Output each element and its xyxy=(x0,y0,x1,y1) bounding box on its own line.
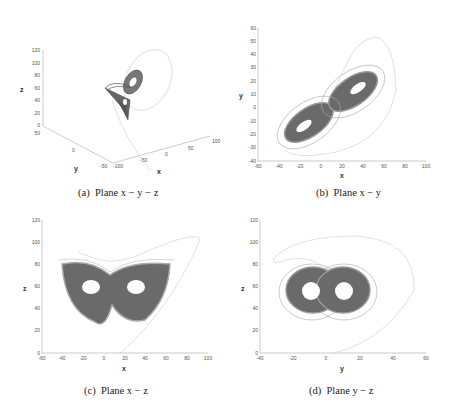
caption-label: (a) xyxy=(78,187,90,198)
caption-b: (b) Plane x − y xyxy=(316,187,381,198)
caption-text: Plane x − y − z xyxy=(95,187,158,198)
x-tick: -60 xyxy=(38,355,45,361)
x-tick: 0 xyxy=(103,355,106,361)
y-axis-label: z xyxy=(23,285,27,292)
x-tick: -20 xyxy=(79,355,86,361)
x-tick: -40 xyxy=(275,163,282,169)
panel-b-xy: 60 50 40 30 20 10 0 -10 -20 -30 -40 -60 … xyxy=(226,0,453,200)
y-tick: 100 xyxy=(250,239,259,245)
x-tick: 100 xyxy=(212,138,221,144)
x-tick: -20 xyxy=(289,355,296,361)
y-tick: 80 xyxy=(252,261,258,267)
panel-d-yz: 120 100 80 60 40 20 0 -40 -20 0 20 40 60… xyxy=(226,200,453,407)
chart-xy: 60 50 40 30 20 10 0 -10 -20 -30 -40 -60 … xyxy=(226,0,453,200)
x-tick: 0 xyxy=(165,151,168,157)
caption-label: (c) xyxy=(84,385,96,396)
caption-text: Plane y − z xyxy=(327,385,374,396)
z-tick: 60 xyxy=(34,85,40,91)
caption-c: (c) Plane x − z xyxy=(84,385,148,396)
y-axis-label: z xyxy=(241,285,245,292)
y-tick: -30 xyxy=(249,144,256,150)
x-tick: 80 xyxy=(184,355,190,361)
x-tick: 100 xyxy=(422,163,431,169)
chart-3d-xyz: 120 100 80 60 40 20 0 50 0 -50 -100 -50 … xyxy=(0,0,226,200)
x-tick: -40 xyxy=(58,355,65,361)
z-tick: 100 xyxy=(32,60,41,66)
y-tick: 20 xyxy=(252,327,258,333)
chart-xz: 120 100 80 60 40 20 0 -60 -40 -20 0 20 4… xyxy=(0,200,226,407)
z-tick: 120 xyxy=(32,47,41,53)
y-tick: -50 xyxy=(100,163,107,169)
caption-label: (d) xyxy=(309,385,321,396)
x-tick: 0 xyxy=(325,355,328,361)
y-tick: 0 xyxy=(72,147,75,153)
y-tick: 120 xyxy=(32,217,41,223)
z-axis-label: z xyxy=(20,86,24,93)
caption-a: (a) Plane x − y − z xyxy=(78,187,158,198)
caption-text: Plane x − y xyxy=(334,187,382,198)
x-tick: 50 xyxy=(188,145,194,151)
z-tick: 80 xyxy=(34,72,40,78)
caption-label: (b) xyxy=(316,187,328,198)
y-tick: 60 xyxy=(252,283,258,289)
x-tick: 60 xyxy=(381,163,387,169)
y-tick: 40 xyxy=(252,305,258,311)
x-axis-label: x xyxy=(157,168,161,175)
x-axis-label: y xyxy=(340,365,344,373)
y-tick: 50 xyxy=(250,38,256,44)
y-tick: 60 xyxy=(250,25,256,31)
x-axis-label: x xyxy=(122,365,126,372)
x-tick: 20 xyxy=(357,355,363,361)
y-tick: 20 xyxy=(250,78,256,84)
y-axis-label: y xyxy=(74,165,78,173)
y-axis-label: y xyxy=(239,92,243,100)
x-axis-label: x xyxy=(340,172,344,179)
x-tick: -20 xyxy=(296,163,303,169)
y-tick: 40 xyxy=(250,51,256,57)
panel-c-xz: 120 100 80 60 40 20 0 -60 -40 -20 0 20 4… xyxy=(0,200,226,407)
caption-d: (d) Plane y − z xyxy=(309,385,374,396)
y-tick: -20 xyxy=(249,131,256,137)
y-tick: 30 xyxy=(250,64,256,70)
y-tick: -10 xyxy=(249,118,256,124)
y-tick: 40 xyxy=(34,305,40,311)
y-tick: 60 xyxy=(34,283,40,289)
y-tick: 50 xyxy=(34,130,40,136)
chart-yz: 120 100 80 60 40 20 0 -40 -20 0 20 40 60… xyxy=(226,200,453,407)
x-tick: 40 xyxy=(390,355,396,361)
x-tick: -60 xyxy=(254,163,261,169)
caption-text: Plane x − z xyxy=(101,385,148,396)
x-tick: 40 xyxy=(360,163,366,169)
x-tick: 60 xyxy=(423,355,429,361)
y-tick: 80 xyxy=(34,261,40,267)
x-tick: 20 xyxy=(122,355,128,361)
y-tick: 10 xyxy=(250,91,256,97)
x-tick: 0 xyxy=(320,163,323,169)
x-tick: 80 xyxy=(402,163,408,169)
x-tick: -40 xyxy=(256,355,263,361)
x-tick: -100 xyxy=(113,163,123,169)
y-tick: 100 xyxy=(32,239,41,245)
panel-a-3d: 120 100 80 60 40 20 0 50 0 -50 -100 -50 … xyxy=(0,0,226,200)
z-tick: 0 xyxy=(37,122,40,128)
x-tick: 100 xyxy=(204,355,213,361)
z-tick: 40 xyxy=(34,97,40,103)
x-tick: 60 xyxy=(163,355,169,361)
y-tick: 120 xyxy=(250,217,259,223)
x-tick: 40 xyxy=(142,355,148,361)
y-tick: 20 xyxy=(34,327,40,333)
x-tick: 20 xyxy=(339,163,345,169)
z-tick: 20 xyxy=(34,110,40,116)
y-tick: 0 xyxy=(253,104,256,110)
